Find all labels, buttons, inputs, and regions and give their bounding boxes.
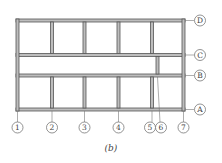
axis-label-7: 7 — [181, 123, 186, 132]
beam-D — [16, 19, 185, 22]
wall-4-lower — [117, 77, 120, 108]
axis-label-4: 4 — [116, 123, 121, 132]
axis-label-C: C — [197, 51, 203, 60]
column-7 — [182, 19, 185, 111]
beam-B — [16, 74, 185, 77]
axis-label-B: B — [197, 71, 203, 80]
wall-6-corridor — [156, 57, 159, 75]
axis-label-5: 5 — [148, 123, 153, 132]
wall-2-lower — [51, 77, 54, 108]
beam-C — [16, 54, 185, 57]
wall-5-lower — [151, 77, 154, 108]
axis-label-2: 2 — [50, 123, 55, 132]
axis-label-6: 6 — [159, 123, 164, 132]
figure-caption: (b) — [0, 143, 222, 153]
structural-grid-plan: 1 2 3 4 5 6 7 D C B A — [0, 0, 222, 163]
wall-3-lower — [83, 77, 86, 108]
column-1 — [16, 19, 19, 111]
wall-4-upper — [117, 22, 120, 54]
wall-3-upper — [83, 22, 86, 54]
axis-label-A: A — [196, 105, 203, 114]
axis-label-1: 1 — [15, 123, 20, 132]
wall-5-upper — [151, 22, 154, 54]
axis-label-D: D — [197, 16, 203, 25]
wall-2-upper — [51, 22, 54, 54]
axis-label-3: 3 — [82, 123, 87, 132]
